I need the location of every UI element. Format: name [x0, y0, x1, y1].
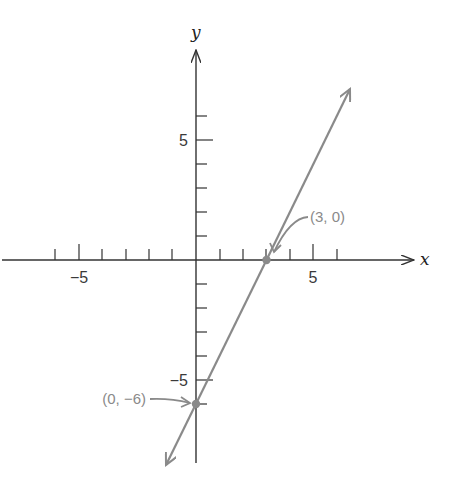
x-intercept-label: (3, 0): [310, 208, 345, 225]
y-tick-label-neg5: −5: [170, 372, 188, 389]
y-intercept-label: (0, −6): [102, 390, 146, 407]
y-axis-title: y: [190, 22, 201, 42]
point-x-intercept: [262, 256, 270, 264]
x-axis-title: x: [420, 249, 430, 269]
point-y-intercept: [192, 400, 200, 408]
x-tick-label-5: 5: [309, 269, 318, 286]
coordinate-plane: −5 5 5 −5 x y (3, 0) (0, −6): [0, 0, 467, 498]
line-series: [166, 89, 350, 465]
x-tick-label-neg5: −5: [70, 269, 88, 286]
y-tick-label-5: 5: [179, 132, 188, 149]
